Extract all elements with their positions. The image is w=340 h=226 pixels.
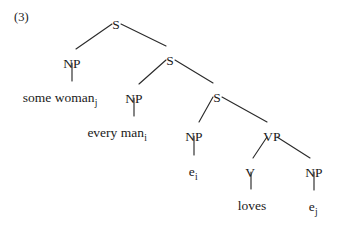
tree-node-label: NP bbox=[125, 91, 142, 106]
tree-node-label: S bbox=[166, 53, 174, 68]
tree-leaf-leaf3: ei bbox=[189, 165, 198, 179]
tree-leaf-index-subscript: j bbox=[95, 98, 98, 108]
example-number-label: (3) bbox=[14, 11, 29, 24]
tree-leaf-text: every man bbox=[87, 125, 144, 140]
tree-leaf-leaf1: some womanj bbox=[23, 91, 97, 105]
tree-node-v: V bbox=[245, 166, 255, 180]
tree-leaf-index-subscript: i bbox=[195, 172, 198, 182]
tree-node-label: V bbox=[245, 165, 255, 180]
tree-node-label: NP bbox=[185, 129, 202, 144]
tree-node-s1: S bbox=[112, 18, 120, 32]
tree-edge-vp-to-np4 bbox=[277, 137, 310, 158]
tree-edge-s2-to-np2 bbox=[139, 60, 166, 84]
tree-node-label: S bbox=[112, 17, 120, 32]
tree-edge-s1-to-s2 bbox=[121, 24, 166, 46]
tree-leaf-leaf4: loves bbox=[238, 199, 267, 213]
tree-edge-s3-to-vp bbox=[222, 97, 267, 122]
tree-node-label: NP bbox=[305, 165, 322, 180]
syntax-tree-figure: (3) SNPSNPSNPVPVNPsome womanjevery manie… bbox=[0, 0, 340, 226]
tree-node-np4: NP bbox=[305, 166, 322, 180]
tree-leaf-index-subscript: i bbox=[144, 133, 147, 143]
tree-edge-s2-to-s3 bbox=[175, 60, 213, 83]
tree-node-label: VP bbox=[263, 129, 280, 144]
tree-leaf-leaf5: ej bbox=[309, 200, 318, 214]
tree-node-s2: S bbox=[166, 54, 174, 68]
tree-node-np1: NP bbox=[63, 57, 80, 71]
tree-leaf-index-subscript: j bbox=[315, 207, 318, 217]
tree-leaf-text: some woman bbox=[23, 90, 95, 105]
tree-node-label: NP bbox=[63, 56, 80, 71]
tree-edge-s1-to-np1 bbox=[76, 24, 112, 49]
tree-leaf-text: loves bbox=[238, 198, 267, 213]
tree-edges bbox=[0, 0, 340, 226]
tree-node-s3: S bbox=[213, 91, 221, 105]
tree-node-label: S bbox=[213, 90, 221, 105]
tree-leaf-leaf2: every mani bbox=[87, 126, 146, 140]
tree-node-np2: NP bbox=[125, 92, 142, 106]
tree-edge-s3-to-np3 bbox=[199, 97, 213, 122]
tree-node-np3: NP bbox=[185, 130, 202, 144]
tree-node-vp: VP bbox=[263, 130, 280, 144]
